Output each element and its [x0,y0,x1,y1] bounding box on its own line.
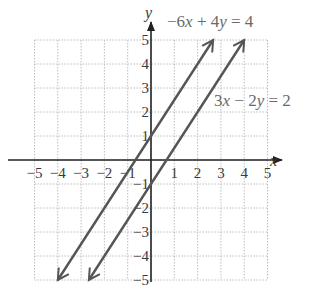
x-axis-label: x [269,152,277,169]
y-tick-label: 4 [142,56,150,72]
x-tick-label: −4 [50,165,66,181]
x-tick-label: 2 [194,165,202,181]
y-tick-label: 2 [142,104,150,120]
x-tick-label: −3 [73,165,89,181]
y-tick-label: −4 [133,248,149,264]
x-tick-label: 4 [240,165,248,181]
x-tick-label: −2 [96,165,112,181]
y-tick-label: −3 [133,224,149,240]
x-tick-label: 1 [171,165,179,181]
y-axis-label: y [143,4,153,22]
x-tick-label: 3 [217,165,225,181]
equation-label-line-1: −6x + 4y = 4 [167,12,254,31]
y-tick-label: 5 [142,32,150,48]
y-tick-label: −5 [133,272,149,288]
equation-label-line-2: 3x − 2y = 2 [214,91,291,110]
y-tick-label: 3 [142,80,150,96]
coordinate-plane: −5−4−3−2−11234554321−1−2−3−4−5 x y −6x +… [0,0,319,298]
x-tick-label: −5 [27,165,43,181]
